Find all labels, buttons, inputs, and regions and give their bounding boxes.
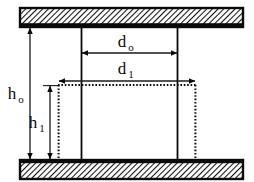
label-d-outer: d o [118, 32, 135, 53]
label-h-inner: h 1 [29, 113, 45, 134]
label-h-outer-sub: o [18, 93, 24, 105]
label-h-outer-base: h [8, 84, 17, 103]
bottom-hatched-plate [20, 160, 243, 179]
bottom-plate-thick-overline [20, 160, 243, 164]
label-h-inner-base: h [29, 113, 38, 132]
label-d-inner-base: d [118, 59, 127, 78]
label-d-outer-base: d [118, 32, 127, 51]
dotted-column-outline [58, 85, 196, 162]
label-h-outer: h o [8, 84, 25, 105]
diagram-canvas: h o h 1 d o d 1 [0, 0, 254, 182]
label-h-inner-sub: 1 [39, 122, 45, 134]
top-plate-thick-underline [20, 23, 243, 27]
h-inner-dimension [43, 86, 58, 159]
label-d-outer-sub: o [128, 41, 134, 53]
top-hatched-plate [20, 8, 243, 27]
label-d-inner-sub: 1 [128, 68, 134, 80]
label-d-inner: d 1 [118, 59, 134, 80]
dimension-diagram: h o h 1 d o d 1 [0, 0, 254, 182]
